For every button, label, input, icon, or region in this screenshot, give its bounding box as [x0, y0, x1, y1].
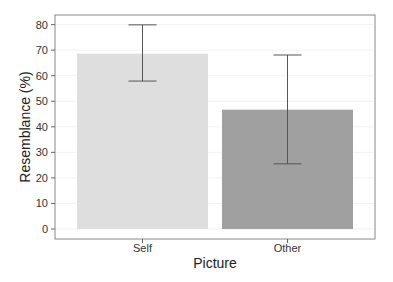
y-tick-label: 70 [36, 44, 48, 56]
x-axis-ticks: SelfOther [133, 239, 302, 254]
y-tick-label: 50 [36, 95, 48, 107]
y-tick-label: 0 [42, 223, 48, 235]
y-axis-title: Resemblance (%) [17, 71, 33, 182]
y-tick-label: 60 [36, 70, 48, 82]
y-tick-label: 30 [36, 146, 48, 158]
x-tick-label: Self [133, 242, 153, 254]
bars [77, 54, 353, 229]
x-tick-label: Other [274, 242, 302, 254]
bar-chart: 01020304050607080 SelfOther Picture Rese… [0, 0, 393, 282]
y-tick-label: 10 [36, 197, 48, 209]
y-axis-ticks: 01020304050607080 [36, 19, 55, 235]
y-tick-label: 20 [36, 172, 48, 184]
x-axis-title: Picture [193, 255, 237, 271]
y-tick-label: 40 [36, 121, 48, 133]
y-tick-label: 80 [36, 19, 48, 31]
